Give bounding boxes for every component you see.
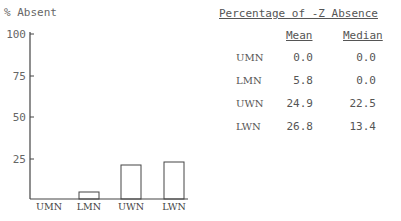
table-cell-median: 0.0	[336, 74, 376, 87]
table-cell-median: 0.0	[336, 51, 376, 64]
table-cell-mean: 0.0	[273, 51, 313, 64]
table-row-label: LWN	[236, 121, 261, 132]
column-header-mean: Mean	[286, 29, 313, 42]
table-cell-median: 22.5	[336, 97, 376, 110]
bar-lwn	[164, 162, 184, 199]
table-cell-mean: 5.8	[273, 74, 313, 87]
table-row-label: UMN	[236, 52, 263, 63]
y-tick-label-100: 100	[0, 28, 26, 41]
bar-uwn	[121, 165, 141, 199]
x-category-lwn: LWN	[159, 201, 189, 212]
bar-chart	[0, 0, 200, 221]
bar-lmn	[79, 192, 99, 199]
x-category-lmn: LMN	[74, 201, 104, 212]
y-tick-label-25: 25	[0, 153, 26, 166]
x-category-umn: UMN	[34, 201, 64, 212]
table-row-label: LMN	[236, 75, 262, 86]
y-tick-label-75: 75	[0, 70, 26, 83]
column-header-median: Median	[343, 29, 383, 42]
y-tick-label-50: 50	[0, 111, 26, 124]
table-title: Percentage of -Z Absence	[219, 7, 378, 20]
table-cell-mean: 26.8	[273, 120, 313, 133]
table-cell-mean: 24.9	[273, 97, 313, 110]
table-row-label: UWN	[236, 98, 263, 109]
table-cell-median: 13.4	[336, 120, 376, 133]
x-category-uwn: UWN	[116, 201, 146, 212]
